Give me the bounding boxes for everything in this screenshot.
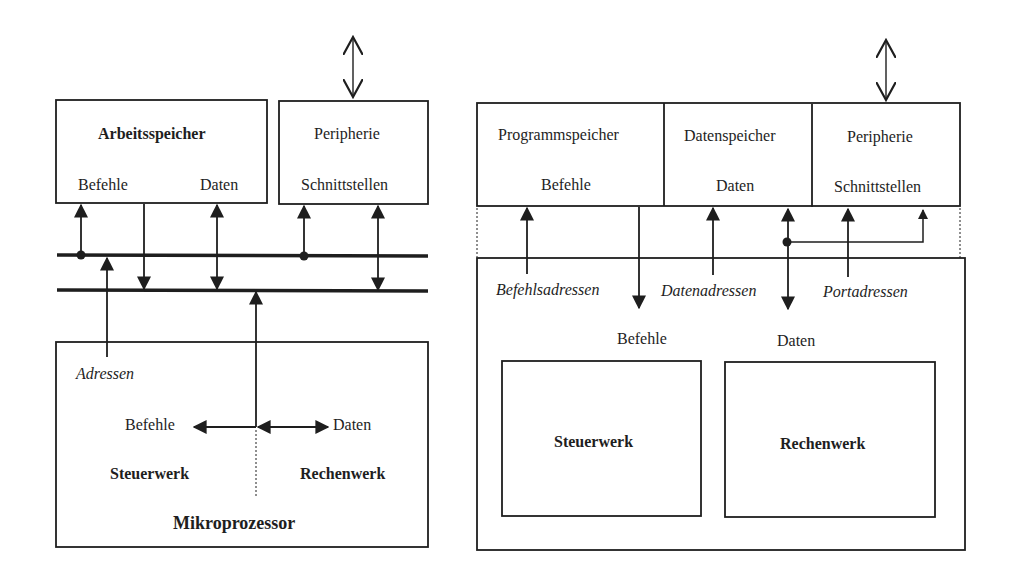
alu-label: Rechenwerk <box>300 466 385 482</box>
cpu-instr-label: Befehle <box>125 417 175 433</box>
data-memory-label: Daten <box>716 178 754 194</box>
program-memory-label: Befehle <box>541 177 591 193</box>
address-bus <box>57 255 428 256</box>
memory-data-label: Daten <box>200 177 238 193</box>
junction-dot <box>300 252 309 261</box>
peripheral-title: Peripherie <box>314 126 380 142</box>
cpu-data-label: Daten <box>777 333 815 349</box>
instr-address-label: Befehlsadressen <box>496 282 599 298</box>
junction-dot <box>77 251 86 260</box>
cpu-title: Mikroprozessor <box>173 514 295 532</box>
junction-dot <box>783 238 792 247</box>
memory-title: Arbeitsspeicher <box>98 126 206 142</box>
peripheral-subtitle: Schnittstellen <box>301 177 388 193</box>
memory-instr-label: Befehle <box>78 177 128 193</box>
peripheral-subtitle: Schnittstellen <box>834 179 921 195</box>
port-address-label: Portadressen <box>823 284 908 300</box>
control-unit-label: Steuerwerk <box>554 434 633 450</box>
address-label: Adressen <box>76 366 134 382</box>
cpu-data-label: Daten <box>333 417 371 433</box>
cpu-box <box>477 258 965 550</box>
program-memory-title: Programmspeicher <box>498 127 619 143</box>
data-memory-title: Datenspeicher <box>684 128 776 144</box>
port-data-arrow <box>788 210 923 242</box>
data-address-label: Datenadressen <box>661 283 756 299</box>
peripheral-title: Peripherie <box>847 129 913 145</box>
control-unit-label: Steuerwerk <box>110 466 189 482</box>
data-bus <box>57 290 428 291</box>
cpu-instr-label: Befehle <box>617 331 667 347</box>
alu-label: Rechenwerk <box>780 436 865 452</box>
